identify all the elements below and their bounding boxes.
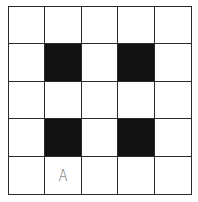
grid-cell-filled [45, 44, 81, 81]
grid-diagram: A [8, 6, 192, 195]
grid-cell-empty [155, 7, 191, 44]
grid-cell-empty [82, 157, 118, 194]
grid-cell-empty [9, 82, 45, 119]
cell-label: A [59, 167, 68, 185]
grid-cell-empty [82, 119, 118, 156]
grid-cell-filled [118, 119, 154, 156]
grid-cell-empty [45, 82, 81, 119]
grid-cell-empty [82, 7, 118, 44]
grid-cell-empty: A [45, 157, 81, 194]
grid-cell-empty [155, 82, 191, 119]
grid-cell-empty [82, 44, 118, 81]
grid-cell-empty [9, 7, 45, 44]
grid-cell-empty [9, 44, 45, 81]
grid-cell-empty [155, 157, 191, 194]
grid-cell-empty [82, 82, 118, 119]
grid-cell-empty [118, 157, 154, 194]
grid-cell-empty [9, 119, 45, 156]
grid-cell-empty [118, 7, 154, 44]
grid-cell-empty [45, 7, 81, 44]
grid-cell-filled [45, 119, 81, 156]
grid-cell-empty [9, 157, 45, 194]
grid-cell-empty [118, 82, 154, 119]
grid-cell-empty [155, 119, 191, 156]
grid-cell-filled [118, 44, 154, 81]
grid-cell-empty [155, 44, 191, 81]
